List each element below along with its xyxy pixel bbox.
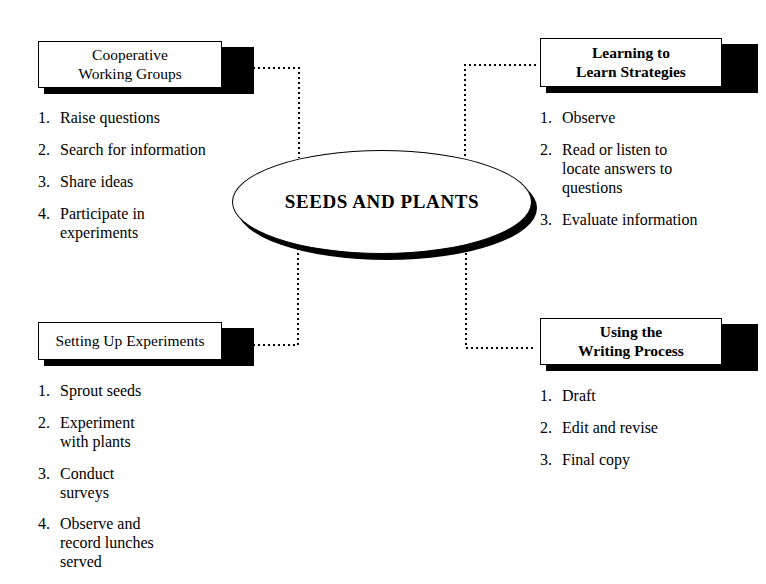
list-item-number: 4. (38, 205, 60, 224)
list-item-number: 3. (38, 465, 60, 484)
header-box-title: Setting Up Experiments (50, 332, 211, 351)
quadrant-bottom-left: Setting Up Experiments 1. Sprout seeds 2… (38, 322, 248, 584)
list-item-label: Participate in experiments (60, 205, 248, 243)
list-item-number: 1. (540, 109, 562, 128)
list-item-label: Draft (562, 387, 752, 406)
header-box-top-left: Cooperative Working Groups (38, 41, 248, 88)
list-item: 4. Participate in experiments (38, 205, 248, 243)
list-item-number: 4. (38, 515, 60, 534)
header-box: Using the Writing Process (540, 318, 722, 365)
quadrant-top-left: Cooperative Working Groups 1. Raise ques… (38, 41, 248, 255)
diagram-canvas: SEEDS AND PLANTS Cooperative Working Gro… (0, 0, 766, 584)
list-item-number: 2. (38, 414, 60, 433)
list-item: 2. Search for information (38, 141, 248, 160)
list-item: 2. Experiment with plants (38, 414, 248, 452)
list-item-number: 2. (38, 141, 60, 160)
list-item-number: 3. (540, 451, 562, 470)
list-item-label: Observe (562, 109, 752, 128)
list-item: 1. Raise questions (38, 109, 248, 128)
header-box: Cooperative Working Groups (38, 41, 222, 88)
header-box: Learning to Learn Strategies (540, 38, 722, 87)
header-box: Setting Up Experiments (38, 322, 222, 360)
list-item-label: Evaluate information (562, 211, 752, 230)
header-box-bottom-left: Setting Up Experiments (38, 322, 248, 360)
central-node: SEEDS AND PLANTS (232, 150, 532, 254)
item-list-bottom-left: 1. Sprout seeds 2. Experiment with plant… (38, 382, 248, 572)
central-node-label: SEEDS AND PLANTS (285, 192, 479, 213)
list-item-label: Experiment with plants (60, 414, 248, 452)
list-item-label: Raise questions (60, 109, 248, 128)
list-item-label: Observe and record lunches served (60, 515, 248, 572)
item-list-top-right: 1. Observe 2. Read or listen to locate a… (540, 109, 752, 229)
list-item-label: Sprout seeds (60, 382, 248, 401)
list-item-number: 1. (38, 109, 60, 128)
list-item-label: Search for information (60, 141, 248, 160)
list-item-number: 3. (38, 173, 60, 192)
list-item: 1. Sprout seeds (38, 382, 248, 401)
list-item-label: Conduct surveys (60, 465, 248, 503)
list-item-number: 3. (540, 211, 562, 230)
quadrant-bottom-right: Using the Writing Process 1. Draft 2. Ed… (540, 318, 752, 483)
quadrant-top-right: Learning to Learn Strategies 1. Observe … (540, 38, 752, 242)
list-item-label: Share ideas (60, 173, 248, 192)
list-item-label: Edit and revise (562, 419, 752, 438)
connector-bottom-right (466, 248, 536, 348)
list-item: 1. Draft (540, 387, 752, 406)
header-box-title: Cooperative Working Groups (72, 46, 187, 83)
header-box-top-right: Learning to Learn Strategies (540, 38, 752, 87)
list-item: 2. Edit and revise (540, 419, 752, 438)
header-box-bottom-right: Using the Writing Process (540, 318, 752, 365)
list-item: 1. Observe (540, 109, 752, 128)
header-box-title: Using the Writing Process (572, 323, 690, 360)
list-item: 3. Share ideas (38, 173, 248, 192)
connector-top-right (465, 65, 536, 158)
list-item-number: 1. (540, 387, 562, 406)
list-item-label: Final copy (562, 451, 752, 470)
list-item-number: 2. (540, 419, 562, 438)
list-item-label: Read or listen to locate answers to ques… (562, 141, 752, 198)
list-item: 3. Final copy (540, 451, 752, 470)
list-item: 2. Read or listen to locate answers to q… (540, 141, 752, 198)
list-item: 3. Evaluate information (540, 211, 752, 230)
list-item-number: 1. (38, 382, 60, 401)
list-item: 4. Observe and record lunches served (38, 515, 248, 572)
ellipse-icon: SEEDS AND PLANTS (232, 150, 532, 254)
list-item: 3. Conduct surveys (38, 465, 248, 503)
header-box-title: Learning to Learn Strategies (570, 44, 692, 81)
item-list-bottom-right: 1. Draft 2. Edit and revise 3. Final cop… (540, 387, 752, 470)
item-list-top-left: 1. Raise questions 2. Search for informa… (38, 109, 248, 242)
list-item-number: 2. (540, 141, 562, 160)
